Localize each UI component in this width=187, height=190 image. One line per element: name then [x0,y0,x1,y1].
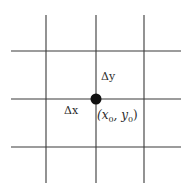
grid-diagram: Δy Δx (x0, y0) [0,0,187,190]
coord-mid-y: , y [114,108,129,122]
coord-close: ) [133,108,138,122]
grid-point-marker [91,94,102,105]
point-coordinate-label: (x0, y0) [97,108,138,124]
coord-open-x: (x [97,108,109,122]
delta-x-label: Δx [64,104,79,117]
delta-y-label: Δy [101,70,116,83]
